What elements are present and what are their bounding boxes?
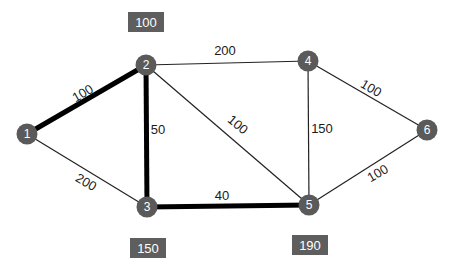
edge-labels-layer: 1002005020010040150100100 [70,43,391,203]
edge-weight-label: 100 [70,81,96,105]
edge-2-3 [146,65,147,207]
node-2: 2 [136,55,157,76]
graph-diagram: 1002005020010040150100100 123456 1001501… [0,0,455,273]
distance-value: 190 [299,238,321,253]
node-5: 5 [299,195,320,216]
node-1: 1 [17,124,38,145]
node-label: 3 [144,200,151,214]
distance-box-node-3: 150 [130,238,166,258]
edge-weight-label: 100 [365,161,391,185]
edge-4-5 [308,61,309,205]
distance-box-node-2: 100 [128,12,164,32]
edge-2-4 [146,61,308,65]
node-label: 1 [24,127,31,141]
node-label: 6 [424,123,431,137]
node-6: 6 [417,120,438,141]
edge-4-6 [308,61,427,130]
edge-weight-label: 40 [215,188,229,203]
edge-weight-label: 200 [73,170,99,194]
edge-weight-label: 150 [311,121,333,136]
edge-2-5 [146,65,309,205]
distance-value: 100 [135,15,157,30]
node-label: 2 [143,58,150,72]
node-4: 4 [298,51,319,72]
edge-1-3 [27,134,147,207]
distance-value: 150 [137,241,159,256]
edge-weight-label: 50 [151,122,165,137]
edge-5-6 [309,130,427,205]
edge-weight-label: 100 [358,76,384,100]
node-label: 5 [306,198,313,212]
edge-weight-label: 100 [225,112,251,137]
edge-3-5 [147,205,309,207]
distance-box-node-5: 190 [292,235,328,255]
node-label: 4 [305,54,312,68]
edge-weight-label: 200 [214,43,236,58]
node-3: 3 [137,197,158,218]
